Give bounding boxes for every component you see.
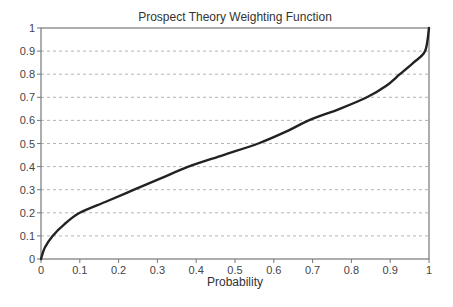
x-tick-label: 0.6 <box>266 264 281 276</box>
y-tick-label: 0.9 <box>20 45 35 57</box>
x-tick-label: 1 <box>426 264 432 276</box>
y-tick-label: 0.5 <box>20 138 35 150</box>
x-tick-label: 0.4 <box>189 264 204 276</box>
y-tick-label: 0.4 <box>20 161 35 173</box>
x-tick-label: 0.7 <box>305 264 320 276</box>
x-axis-ticks: 00.10.20.30.40.50.60.70.80.91 <box>38 259 432 276</box>
x-axis-label: Probability <box>207 275 263 289</box>
x-tick-label: 0.2 <box>111 264 126 276</box>
x-tick-label: 0.9 <box>383 264 398 276</box>
y-tick-label: 1 <box>29 22 35 34</box>
y-tick-label: 0.2 <box>20 207 35 219</box>
gridlines <box>41 51 429 236</box>
x-tick-label: 0.3 <box>150 264 165 276</box>
y-tick-label: 0.1 <box>20 230 35 242</box>
y-tick-label: 0.8 <box>20 68 35 80</box>
y-axis-ticks: 00.10.20.30.40.50.60.70.80.91 <box>20 22 41 265</box>
chart-title: Prospect Theory Weighting Function <box>138 10 332 24</box>
y-tick-label: 0.7 <box>20 91 35 103</box>
x-tick-label: 0.8 <box>344 264 359 276</box>
x-tick-label: 0 <box>38 264 44 276</box>
chart: Prospect Theory Weighting Function 00.10… <box>0 0 453 307</box>
y-tick-label: 0.3 <box>20 184 35 196</box>
y-tick-label: 0 <box>29 253 35 265</box>
x-tick-label: 0.1 <box>72 264 87 276</box>
y-tick-label: 0.6 <box>20 114 35 126</box>
